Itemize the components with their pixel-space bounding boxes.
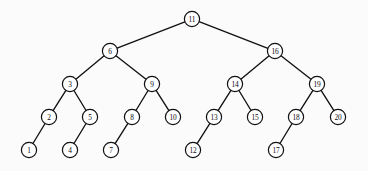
tree-node[interactable]: 12 (185, 142, 200, 157)
tree-node-label: 7 (109, 146, 113, 155)
tree-node[interactable]: 17 (268, 142, 283, 157)
tree-edge (76, 56, 104, 79)
tree-node[interactable]: 4 (62, 142, 77, 157)
tree-nodes-group: 1161639141925810131518201471217 (21, 11, 345, 157)
tree-node[interactable]: 11 (184, 11, 199, 26)
tree-node[interactable]: 20 (330, 109, 345, 124)
tree-node[interactable]: 3 (62, 76, 77, 91)
tree-node-label: 12 (189, 146, 197, 155)
tree-node-label: 19 (313, 80, 321, 89)
tree-node[interactable]: 16 (267, 43, 282, 58)
tree-node-label: 17 (272, 146, 280, 155)
tree-edge (241, 56, 269, 79)
tree-edge (280, 124, 292, 144)
tree-node-label: 14 (231, 80, 239, 89)
tree-node-label: 4 (68, 146, 72, 155)
tree-edge (321, 90, 334, 110)
tree-node[interactable]: 18 (288, 109, 303, 124)
tree-node-label: 9 (150, 80, 154, 89)
tree-edge (117, 22, 185, 48)
tree-edge (116, 56, 146, 80)
tree-edge (218, 90, 231, 110)
tree-node-label: 8 (130, 113, 134, 122)
tree-node-label: 20 (334, 113, 342, 122)
tree-node[interactable]: 15 (247, 109, 262, 124)
binary-search-tree-diagram: 1161639141925810131518201471217 (0, 0, 368, 171)
tree-edge (136, 91, 148, 111)
tree-node-label: 18 (292, 113, 300, 122)
tree-node-label: 6 (108, 47, 112, 56)
tree-edge (281, 56, 311, 80)
tree-node[interactable]: 14 (227, 76, 242, 91)
tree-edge (239, 91, 251, 111)
tree-node-label: 5 (88, 113, 92, 122)
tree-edge (197, 123, 210, 143)
tree-node[interactable]: 7 (103, 142, 118, 157)
tree-node[interactable]: 9 (144, 76, 159, 91)
tree-node-label: 2 (47, 113, 51, 122)
tree-edge (156, 90, 169, 110)
tree-edge (33, 124, 45, 144)
tree-edge (53, 90, 66, 110)
tree-node-label: 15 (251, 113, 259, 122)
tree-node[interactable]: 8 (124, 109, 139, 124)
tree-node[interactable]: 13 (206, 109, 221, 124)
tree-edge (74, 124, 86, 144)
tree-node-label: 10 (169, 113, 177, 122)
tree-node[interactable]: 19 (309, 76, 324, 91)
tree-node-label: 1 (27, 146, 31, 155)
tree-node[interactable]: 1 (21, 142, 36, 157)
tree-edge (300, 90, 313, 110)
tree-edge (74, 91, 86, 111)
tree-node[interactable]: 10 (165, 109, 180, 124)
tree-node-label: 3 (68, 80, 72, 89)
tree-node-label: 11 (189, 15, 196, 24)
tree-canvas: 1161639141925810131518201471217 (0, 0, 368, 171)
tree-node-label: 13 (210, 113, 218, 122)
tree-node-label: 16 (271, 47, 279, 56)
tree-edge (199, 22, 268, 49)
tree-node[interactable]: 6 (102, 43, 117, 58)
tree-node[interactable]: 2 (41, 109, 56, 124)
tree-node[interactable]: 5 (82, 109, 97, 124)
tree-edge (115, 123, 128, 143)
